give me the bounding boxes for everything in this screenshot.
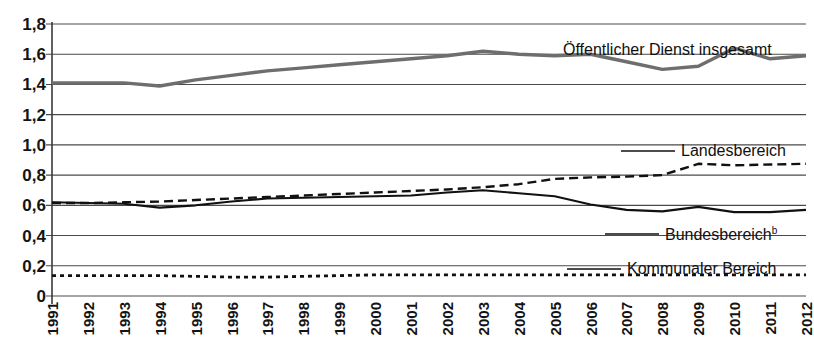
x-tick-label: 2011 [762,302,779,335]
series-label: Öffentlicher Dienst insgesamt [563,41,772,59]
series-label: Bundesbereichb [665,225,777,244]
y-tick-label: 0,6 [2,197,46,214]
x-tick-label: 1991 [44,302,61,335]
series-label: Kommunaler Bereich [627,260,776,278]
x-tick-label: 2007 [618,302,635,335]
x-tick-label: 2004 [511,302,528,335]
x-tick-label: 1996 [224,302,241,335]
y-tick-label: 0,4 [2,227,46,244]
x-tick-label: 2001 [403,302,420,335]
series-line-1 [52,164,806,203]
x-tick-label: 1999 [331,302,348,335]
x-tick-label: 2000 [367,302,384,335]
x-tick-label: 1998 [295,302,312,335]
y-tick-label: 1,2 [2,106,46,123]
y-tick-label: 1,0 [2,136,46,153]
x-tick-label: 2003 [475,302,492,335]
x-tick-label: 2009 [690,302,707,335]
x-tick-label: 1997 [259,302,276,335]
x-tick-label: 2005 [547,302,564,335]
series-label: Landesbereich [681,142,786,160]
y-tick-label: 1,4 [2,76,46,93]
x-axis: 1991199219931994199519961997199819992000… [0,302,814,355]
x-tick-label: 2008 [654,302,671,335]
x-tick-label: 2006 [583,302,600,335]
x-tick-label: 1992 [80,302,97,335]
y-tick-label: 1,8 [2,16,46,33]
x-tick-label: 1993 [116,302,133,335]
y-tick-label: 0,8 [2,167,46,184]
y-tick-label: 1,6 [2,46,46,63]
chart-figure: 1,81,61,41,21,00,80,60,40,20 19911992199… [0,0,814,355]
x-tick-label: 1995 [188,302,205,335]
x-tick-label: 2002 [439,302,456,335]
x-tick-label: 1994 [152,302,169,335]
y-tick-label: 0,2 [2,257,46,274]
x-tick-label: 2010 [726,302,743,335]
x-tick-label: 2012 [798,302,814,335]
footnote-marker: b [772,225,778,236]
